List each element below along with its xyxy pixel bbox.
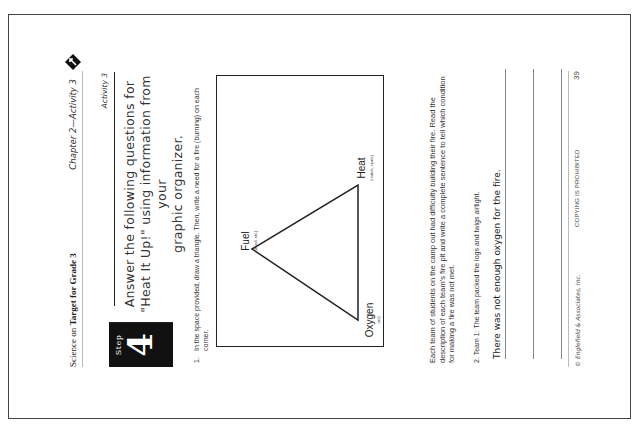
title-line-3: graphic organizer. xyxy=(170,69,186,319)
page-number: 39 xyxy=(572,71,581,80)
target-arrow-icon xyxy=(64,53,82,71)
question-1: 1. In the space provided, draw a triangl… xyxy=(192,73,210,363)
activity-rule xyxy=(114,72,115,306)
step-title: Answer the following questions for "Heat… xyxy=(122,69,186,319)
question-2-number: 2. xyxy=(473,357,480,363)
step-rule xyxy=(109,322,173,323)
header-rule xyxy=(82,71,83,367)
question-1-text: In the space provided, draw a triangle. … xyxy=(192,73,210,351)
question-2: 2. Team 1: The team packed the logs and … xyxy=(473,73,480,363)
corner-sub-oxygen: (air) xyxy=(376,316,381,324)
copyright-text: © Englefield & Associates, Inc. xyxy=(574,274,581,367)
answer-line-1[interactable] xyxy=(505,69,506,359)
fire-triangle-shape xyxy=(252,185,358,320)
worksheet-page: Science on Target for Grade 3 Chapter 2—… xyxy=(8,14,631,419)
corner-label-fuel: Fuel xyxy=(240,231,251,250)
fire-triangle-drawing-area[interactable]: Fuel (wood, etc.) Heat (match, spark) Ox… xyxy=(216,75,384,347)
corner-label-oxygen: Oxygen xyxy=(364,303,375,337)
footer-rule xyxy=(568,71,569,367)
answer-line-2[interactable] xyxy=(533,69,534,359)
book-title-prefix: Science on xyxy=(68,326,78,367)
question-2-text: Team 1: The team packed the logs and twi… xyxy=(473,192,480,356)
corner-sub-fuel: (wood, etc.) xyxy=(253,230,258,252)
activity-label: Activity 3 xyxy=(100,73,109,139)
corner-label-heat: Heat xyxy=(356,157,367,178)
chapter-label: Chapter 2—Activity 3 xyxy=(68,79,78,189)
instructions-paragraph: Each team of students on the camp out ha… xyxy=(428,73,457,363)
question-2-answer[interactable]: There was not enough oxygen for the fire… xyxy=(492,69,502,359)
title-line-2: "Heat It Up!" using information from you… xyxy=(138,69,170,319)
step-badge: Step 4 xyxy=(109,323,173,367)
book-title-bold: Target for Grade 3 xyxy=(68,253,78,325)
copying-notice: COPYING IS PROHIBITED xyxy=(574,149,580,227)
title-line-1: Answer the following questions for xyxy=(122,69,138,319)
question-1-number: 1. xyxy=(192,357,201,363)
corner-sub-heat: (match, spark) xyxy=(369,155,374,181)
answer-line-3[interactable] xyxy=(561,69,562,359)
step-number: 4 xyxy=(123,323,157,367)
book-title: Science on Target for Grade 3 xyxy=(68,253,78,367)
